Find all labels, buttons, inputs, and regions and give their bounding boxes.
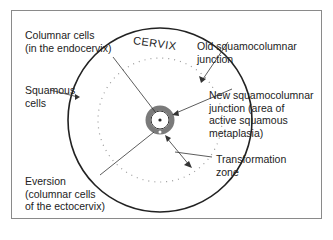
columnar-cells-leader [113,57,156,113]
eversion-leader [100,132,154,175]
columnar-cells-label: Columnar cells (in the endocervix) [25,29,111,54]
new-scj-label: New squamocolumnar junction (area of act… [209,89,313,139]
eversion-dot [159,131,162,134]
squamous-cells-label: Squamous cells [25,84,75,109]
old-scj-label: Old squamocolumnar junction [197,40,297,65]
transformation-zone-arrow [166,137,190,166]
transformation-zone-label: Transformation zone [216,153,286,178]
eversion-label: Eversion (columnar cells of the ectocerv… [25,175,105,213]
os-center-dot [158,118,161,121]
